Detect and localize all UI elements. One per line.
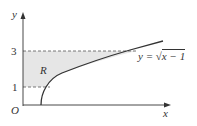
y-axis-label: y (12, 9, 17, 20)
curve-label-radicand: x − 1 (162, 49, 185, 62)
curve-label: y = √x − 1 (138, 51, 185, 62)
curve-label-lhs: y = (138, 50, 153, 62)
origin-label: O (11, 105, 19, 116)
region-label: R (40, 65, 47, 76)
y-tick-3: 3 (11, 46, 17, 57)
x-axis-label: x (163, 108, 168, 119)
y-axis-arrow-icon (21, 12, 26, 19)
y-tick-1: 1 (12, 82, 18, 93)
sqrt-symbol: √ (156, 50, 162, 62)
